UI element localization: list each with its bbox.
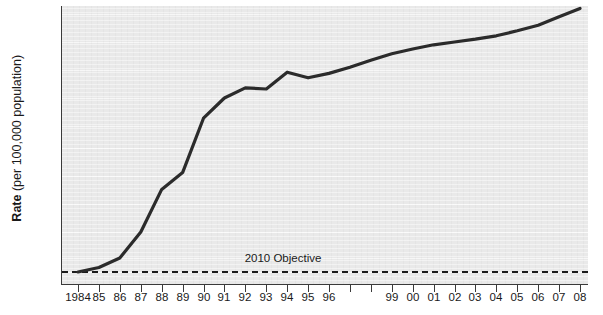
x-tick-96: 96 [323, 292, 336, 304]
x-tick-02: 02 [449, 292, 462, 304]
x-tick-93: 93 [260, 292, 273, 304]
rate-trend-line-chart: Rate (per 100,000 population) 0325507510… [0, 0, 603, 315]
x-tick-94: 94 [281, 292, 294, 304]
x-tick-04: 04 [490, 292, 503, 304]
x-tick-08: 08 [574, 292, 587, 304]
objective-annotation-label: 2010 Objective [245, 253, 322, 265]
x-tick-85: 85 [93, 292, 106, 304]
y-axis-title-bold: Rate [10, 195, 24, 222]
x-tick-91: 91 [218, 292, 231, 304]
x-tick-06: 06 [532, 292, 545, 304]
x-tick-88: 88 [156, 292, 169, 304]
series-svg-layer [62, 6, 588, 284]
x-tick-mark-14 [371, 285, 372, 292]
x-tick-87: 87 [135, 292, 148, 304]
x-tick-90: 90 [198, 292, 211, 304]
x-tick-89: 89 [177, 292, 190, 304]
x-tick-mark-13 [350, 285, 351, 292]
x-tick-95: 95 [302, 292, 315, 304]
x-tick-92: 92 [239, 292, 252, 304]
x-tick-05: 05 [511, 292, 524, 304]
y-axis-title-rest: (per 100,000 population) [10, 55, 24, 195]
x-tick-03: 03 [469, 292, 482, 304]
x-tick-86: 86 [114, 292, 127, 304]
y-axis-title: Rate (per 100,000 population) [11, 18, 24, 258]
x-tick-07: 07 [553, 292, 566, 304]
x-tick-1984: 1984 [65, 292, 91, 304]
x-tick-99: 99 [386, 292, 399, 304]
y-axis-line [61, 6, 62, 285]
rate-series-line [78, 8, 580, 272]
x-tick-00: 00 [407, 292, 420, 304]
plot-area [62, 6, 588, 284]
x-tick-01: 01 [428, 292, 441, 304]
